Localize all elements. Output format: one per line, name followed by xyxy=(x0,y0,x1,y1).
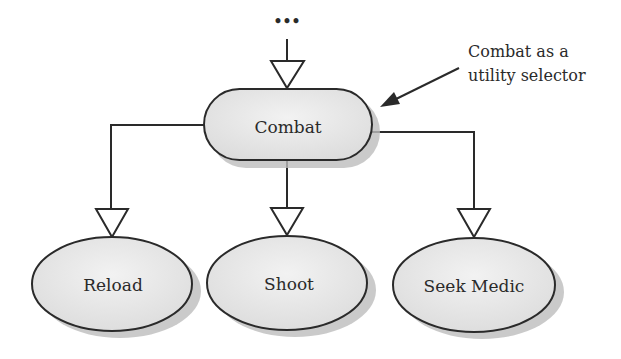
node-label: Seek Medic xyxy=(424,276,525,296)
annotation: Combat as a utility selector xyxy=(380,42,586,107)
node-combat[interactable]: Combat xyxy=(204,89,380,168)
annotation-line-2: utility selector xyxy=(468,66,586,85)
arrowhead-icon xyxy=(96,209,128,237)
behavior-tree-diagram: ••• Combat Reload Shoot Seek Medic xyxy=(0,0,621,359)
annotation-line-1: Combat as a xyxy=(468,42,569,61)
arrowhead-icon xyxy=(271,208,303,235)
node-label: Shoot xyxy=(264,274,314,294)
annotation-arrow-line xyxy=(392,68,459,101)
edge-parent-to-combat xyxy=(271,39,304,88)
parent-ellipsis: ••• xyxy=(274,13,301,29)
node-label: Reload xyxy=(83,275,143,295)
node-label: Combat xyxy=(254,117,321,137)
edge-combat-to-seek-medic xyxy=(372,132,490,237)
arrowhead-icon xyxy=(271,61,304,88)
arrowhead-icon xyxy=(458,209,490,237)
edge-combat-to-reload xyxy=(96,125,204,237)
arrowhead-icon xyxy=(380,92,400,107)
node-reload[interactable]: Reload xyxy=(32,237,201,338)
node-seek-medic[interactable]: Seek Medic xyxy=(393,238,564,339)
edge-combat-to-shoot xyxy=(271,160,303,235)
node-shoot[interactable]: Shoot xyxy=(207,236,376,337)
